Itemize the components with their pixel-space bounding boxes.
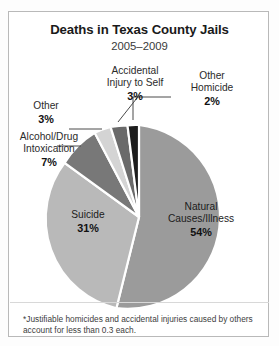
label-natural-causes-pct: 54% bbox=[149, 226, 253, 239]
label-accidental-injury-line2: Injury to Self bbox=[107, 77, 164, 88]
label-natural-causes-line2: Causes/Illness bbox=[168, 213, 234, 224]
label-suicide: Suicide 31% bbox=[51, 209, 125, 235]
label-other-line1: Other bbox=[33, 100, 58, 111]
label-other-homicide-pct: 2% bbox=[169, 95, 255, 108]
label-other-homicide-line1: Other bbox=[199, 70, 224, 81]
label-other: Other 3% bbox=[19, 100, 73, 126]
pie-svg bbox=[9, 12, 270, 338]
label-other-pct: 3% bbox=[19, 113, 73, 126]
pie-chart bbox=[9, 12, 270, 338]
label-alcohol-drug-line2: Intoxication bbox=[23, 143, 75, 154]
label-natural-causes-line1: Natural bbox=[185, 201, 218, 212]
label-alcohol-drug: Alcohol/Drug Intoxication 7% bbox=[7, 131, 91, 169]
label-other-homicide-line2: Homicide bbox=[191, 82, 233, 93]
label-alcohol-drug-pct: 7% bbox=[7, 156, 91, 169]
label-natural-causes: Natural Causes/Illness 54% bbox=[149, 201, 253, 239]
chart-footnote: *Justifiable homicides and accidental in… bbox=[23, 314, 259, 336]
label-alcohol-drug-line1: Alcohol/Drug bbox=[20, 131, 78, 142]
label-suicide-line1: Suicide bbox=[71, 209, 104, 220]
chart-card: Deaths in Texas County Jails 2005–2009 bbox=[8, 11, 269, 337]
footnote-divider bbox=[10, 302, 269, 303]
label-accidental-injury-line1: Accidental bbox=[111, 65, 158, 76]
label-other-homicide: Other Homicide 2% bbox=[169, 70, 255, 108]
chart-screenshot: Deaths in Texas County Jails 2005–2009 bbox=[0, 0, 279, 346]
label-suicide-pct: 31% bbox=[51, 222, 125, 235]
